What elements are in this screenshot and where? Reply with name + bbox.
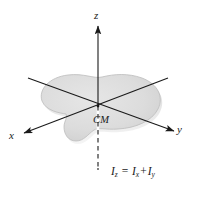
equation-term2-subscript: y [152, 170, 155, 179]
y-axis-label: y [177, 124, 182, 135]
perpendicular-axis-equation: Iz = Ix+Iy [111, 165, 155, 179]
center-of-mass-label: CM [93, 114, 109, 125]
equation-lhs-subscript: z [115, 170, 118, 179]
equation-plus-sign: + [139, 165, 148, 177]
x-axis-label: x [9, 130, 14, 141]
z-axis-label: z [94, 10, 98, 21]
perpendicular-axis-theorem-figure: z x y CM Iz = Ix+Iy [0, 0, 198, 199]
origin-point [97, 105, 100, 108]
equation-equals-sign: = [121, 165, 130, 177]
diagram-canvas [0, 0, 198, 199]
